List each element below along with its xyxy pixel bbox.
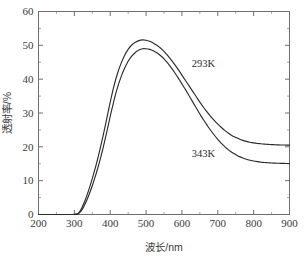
x-tick-label: 800 [245, 217, 262, 229]
x-tick-label: 300 [66, 217, 83, 229]
series-label-343K: 343K [192, 148, 216, 159]
x-tick-label: 600 [174, 217, 191, 229]
y-tick-label: 40 [23, 73, 35, 85]
series-label-293K: 293K [192, 58, 216, 69]
transmittance-spectrum-chart: 200300400500600700800900 0102030405060 2… [0, 0, 306, 260]
y-tick-label: 10 [23, 174, 35, 186]
y-tick-label: 60 [23, 5, 35, 17]
figure-container: 200300400500600700800900 0102030405060 2… [0, 0, 306, 260]
x-tick-label: 500 [138, 217, 155, 229]
y-tick-label: 0 [28, 208, 34, 220]
y-tick-label: 30 [23, 107, 35, 119]
x-tick-label: 700 [210, 217, 227, 229]
x-axis-title: 波长/nm [145, 241, 183, 253]
x-tick-label: 900 [281, 217, 298, 229]
y-tick-label: 20 [23, 141, 35, 153]
x-tick-label: 400 [102, 217, 119, 229]
y-axis-title: 透射率/% [1, 92, 13, 134]
y-tick-label: 50 [23, 39, 35, 51]
